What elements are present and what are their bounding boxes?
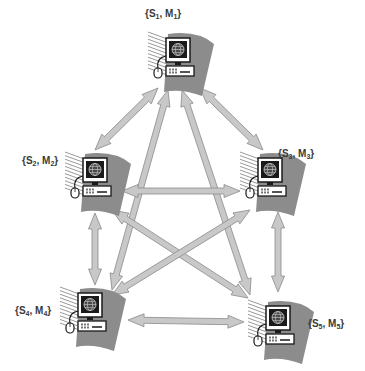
node-n3 [240,152,306,216]
node-n2 [65,152,131,216]
globe-icon [172,44,184,56]
globe-icon [84,299,96,311]
computer-case-icon [166,66,194,76]
node-n1 [148,32,214,96]
globe-icon [272,312,284,324]
computer-case-icon [258,186,286,196]
network-diagram [0,0,365,371]
double-arrow-icon [200,88,263,150]
double-arrow-icon [89,213,102,285]
node-label-n2: {S2, M2} [22,155,58,167]
edge-n2-n4 [89,213,102,285]
node-label-n1: {S1, M1} [145,8,181,20]
node-label-n4: {S4, M4} [15,305,51,317]
nodes-layer [60,32,314,364]
globe-icon [264,164,276,176]
node-label-n3: {S3, M3} [278,148,314,160]
double-arrow-icon [95,88,158,150]
node-n4 [60,287,126,351]
double-arrow-icon [128,314,244,328]
globe-icon [89,164,101,176]
edge-n4-n5 [128,314,244,328]
node-n5 [248,300,314,364]
computer-case-icon [83,186,111,196]
edge-n1-n2 [95,88,158,150]
computer-case-icon [266,334,294,344]
node-label-n5: {S5, M5} [308,318,344,330]
edge-n1-n3 [200,88,263,150]
computer-case-icon [78,321,106,331]
edge-n3-n5 [272,212,285,292]
double-arrow-icon [272,212,285,292]
